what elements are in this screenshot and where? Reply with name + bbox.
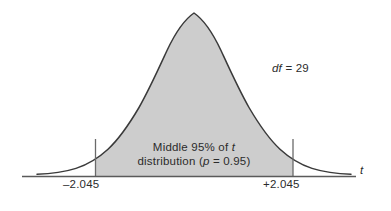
x-tick-label-negative: –2.045 — [63, 178, 99, 190]
df-annotation: df = 29 — [272, 62, 309, 74]
x-axis-label: t — [360, 164, 363, 176]
region-label-line1-prefix: Middle 95% of — [153, 141, 232, 153]
region-label-line2-suffix: = 0.95) — [210, 155, 251, 167]
region-label-line2-prefix: distribution ( — [138, 155, 203, 167]
region-label: Middle 95% of tdistribution (p = 0.95) — [128, 140, 260, 168]
distribution-plot — [0, 0, 391, 211]
t-distribution-figure: df = 29 Middle 95% of tdistribution (p =… — [0, 0, 391, 211]
df-symbol: df — [272, 62, 282, 74]
region-label-t-symbol: t — [232, 141, 235, 153]
region-label-p-symbol: p — [203, 155, 210, 167]
x-tick-label-positive: +2.045 — [263, 178, 300, 190]
df-value: = 29 — [282, 62, 309, 74]
